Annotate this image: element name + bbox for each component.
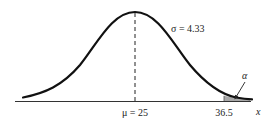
normal-curve-chart: σ = 4.33 α μ = 25 36.5 x	[0, 0, 270, 123]
alpha-arrow	[236, 82, 245, 97]
bell-curve	[23, 12, 252, 99]
sigma-label: σ = 4.33	[171, 23, 205, 34]
mean-label: μ = 25	[122, 107, 148, 118]
critical-value-label: 36.5	[215, 107, 233, 118]
alpha-label: α	[242, 70, 248, 81]
x-axis-label: x	[255, 106, 261, 117]
